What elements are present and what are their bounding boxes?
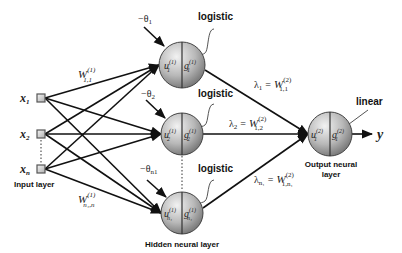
weight-wn1n-label: W(1)n₁,n [78,191,96,209]
input-x1-label: x1 [19,91,30,106]
svg-text:linear: linear [356,96,383,107]
output-y-label: y [375,127,384,142]
hidden-neuron-2: u(1)2 g(1)2 [161,113,203,155]
lambda-1-label: λ1=W(2)1,1 [254,76,292,93]
svg-text:logistic: logistic [198,163,233,174]
hidden-neuron-n1: u(1)n₁ g(1)n₁ [161,192,203,234]
hidden-layer-label: Hidden neural layer [145,240,219,249]
linear-callout: linear [345,96,383,127]
lambda-n1-label: λn₁=W(2)1,n₁ [254,171,294,188]
theta-n1-label: −θn1 [140,163,158,176]
input-node-x2: x2 [19,127,45,142]
input-layer-label: Input layer [14,180,54,189]
svg-text:logistic: logistic [198,11,233,22]
theta-1-label: −θ1 [138,13,152,26]
weight-w11-label: W(1)1,1 [78,66,96,84]
input-xn-label: xn [19,162,30,177]
lambda-2-label: λ2=W(2)1,2 [229,115,267,132]
input-node-x1: x1 [19,91,45,106]
theta-2-label: −θ2 [141,88,155,101]
input-x2-label: x2 [19,127,30,142]
neural-network-diagram: y −θ1 −θ2 −θn1 x1 x2 xn Input layer W(1)… [0,0,402,253]
output-layer-label-line1: Output neural [305,160,357,169]
output-layer-label-line2: layer [322,170,341,179]
input-node-xn: xn [19,162,45,177]
svg-text:logistic: logistic [198,88,233,99]
hidden-neuron-1: u(1)1 g(1)1 [159,42,205,88]
output-neuron: u(2)1 g(2)1 [308,112,352,156]
logistic-callout-1: logistic [198,11,233,56]
